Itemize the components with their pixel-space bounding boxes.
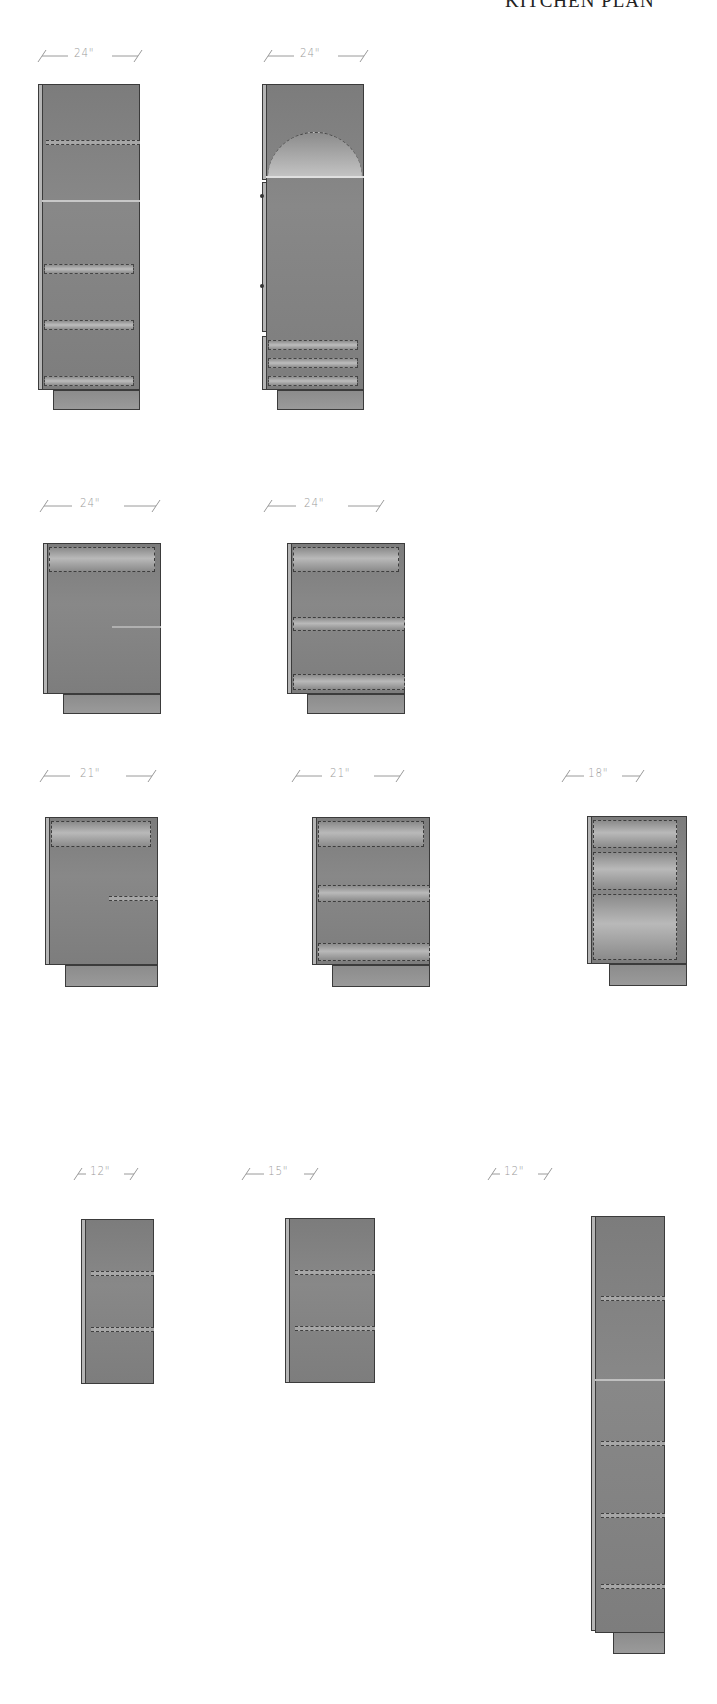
top-drawer xyxy=(593,820,677,848)
top-drawer xyxy=(318,821,424,847)
cabinet-body xyxy=(42,84,140,390)
hinge-icon xyxy=(260,284,264,288)
toe-kick xyxy=(609,964,687,986)
middle-drawer xyxy=(293,617,405,631)
dimension-label-base-24-a: 24" xyxy=(38,494,168,516)
cabinet-tall-pantry-1 xyxy=(38,84,140,410)
middle-drawer xyxy=(593,852,677,890)
dashed-shelf xyxy=(601,1296,665,1301)
toe-kick xyxy=(613,1632,665,1654)
dimension-label-tall-oven: 24" xyxy=(262,44,372,66)
cabinet-base-24-a xyxy=(43,543,161,714)
toe-kick xyxy=(307,694,405,714)
dimension-label-base-24-b: 24" xyxy=(262,494,392,516)
dimension-label-tall-12: 12" xyxy=(486,1162,586,1184)
cabinet-base-21-b xyxy=(312,817,430,987)
cabinet-base-21-a xyxy=(45,817,158,987)
cabinet-wall-15 xyxy=(285,1218,375,1383)
dashed-shelf xyxy=(46,140,140,145)
cabinet-tall-12 xyxy=(591,1216,665,1654)
dimension-label-wall-12: 12" xyxy=(72,1162,152,1184)
sheet-title: KITCHEN PLAN xyxy=(505,0,655,12)
door-split-line xyxy=(42,200,140,202)
toe-kick xyxy=(53,390,140,410)
dashed-shelf xyxy=(601,1513,665,1518)
bottom-drawer xyxy=(593,894,677,960)
dimension-arrow-icon xyxy=(240,1162,340,1184)
dashed-shelf xyxy=(91,1327,154,1332)
bottom-drawer xyxy=(293,674,405,690)
dimension-label-base-21-a: 21" xyxy=(38,764,168,786)
drawer-rail xyxy=(44,264,134,274)
dimension-label-base-18: 18" xyxy=(560,764,690,786)
toe-kick xyxy=(63,694,161,714)
drawer-rail xyxy=(268,340,358,350)
dashed-shelf xyxy=(295,1326,375,1331)
dashed-shelf xyxy=(601,1441,665,1446)
drawer-rail xyxy=(268,376,358,386)
dimension-arrow-icon xyxy=(560,764,690,786)
cabinet-body xyxy=(595,1216,665,1633)
cabinet-base-24-b xyxy=(287,543,405,714)
drawer-rail xyxy=(268,358,358,368)
cabinet-base-18 xyxy=(587,816,687,986)
drawer-rail xyxy=(44,376,134,386)
drawer-rail xyxy=(44,320,134,330)
middle-drawer xyxy=(318,885,430,902)
dimension-arrow-icon xyxy=(38,764,168,786)
bottom-drawer xyxy=(318,943,430,961)
top-drawer xyxy=(49,547,155,572)
dimension-arrow-icon xyxy=(262,494,392,516)
dashed-shelf xyxy=(295,1270,375,1275)
dimension-arrow-icon xyxy=(38,494,168,516)
dimension-label-base-21-b: 21" xyxy=(290,764,420,786)
toe-kick xyxy=(277,390,364,410)
cabinet-body xyxy=(85,1219,154,1384)
cabinet-body xyxy=(289,1218,375,1383)
cabinet-tall-oven xyxy=(262,84,364,410)
hinge-icon xyxy=(260,194,264,198)
door-split-line xyxy=(266,176,364,178)
cabinet-wall-12 xyxy=(81,1219,154,1384)
dimension-arrow-icon xyxy=(290,764,420,786)
dimension-label-wall-15: 15" xyxy=(240,1162,340,1184)
dashed-shelf xyxy=(109,896,158,901)
toe-kick xyxy=(65,965,158,987)
dimension-arrow-icon xyxy=(486,1162,586,1184)
dimension-label-tall-pantry-1: 24" xyxy=(36,44,146,66)
top-drawer xyxy=(51,821,151,847)
dimension-arrow-icon xyxy=(72,1162,152,1184)
toe-kick xyxy=(332,965,430,987)
dashed-shelf xyxy=(91,1271,154,1276)
top-drawer xyxy=(293,547,399,572)
dashed-shelf xyxy=(112,626,161,628)
dashed-shelf xyxy=(601,1584,665,1589)
door-split-line xyxy=(595,1379,665,1381)
